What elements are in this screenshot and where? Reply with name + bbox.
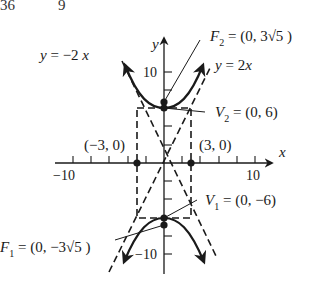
- focus-f2-label: F2 = (0, 3√5 ): [209, 28, 292, 48]
- co-vertex-right-dot: [187, 159, 194, 166]
- lower-branch-right: [164, 218, 204, 262]
- cropped-text-right: 9: [58, 0, 66, 13]
- co-vertex-left-dot: [133, 159, 140, 166]
- asymptote-neg-label: y = −2 x: [38, 47, 89, 63]
- asymptotes: [109, 61, 216, 272]
- cropped-text-left: 36: [0, 0, 16, 13]
- co-vertex-left-label: (−3, 0): [84, 137, 125, 154]
- asymptote-pos-label: y = 2x: [213, 57, 252, 73]
- focus-f1-label: F1 = (0, −3√5 ): [0, 239, 91, 259]
- y-axis-label: y: [150, 36, 159, 52]
- y-tick-label-10: 10: [143, 65, 157, 80]
- x-axis-label: x: [278, 144, 286, 160]
- y-tick-label-neg10: −10: [135, 247, 157, 262]
- vertex-v2-label: V2 = (0, 6): [215, 104, 278, 124]
- co-vertex-right-label: (3, 0): [199, 137, 232, 154]
- vertex-v1-label: V1 = (0, −6): [205, 192, 276, 212]
- x-tick-label-neg10: −10: [53, 168, 75, 183]
- hyperbola-diagram: 36 9 −10 10 x: [0, 0, 314, 284]
- x-tick-label-10: 10: [246, 168, 260, 183]
